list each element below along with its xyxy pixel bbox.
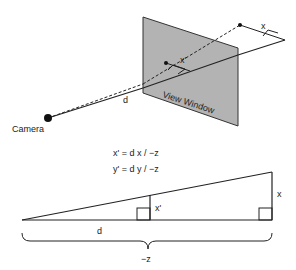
camera-dot — [44, 114, 52, 122]
xprime-label-bottom: x' — [155, 203, 162, 213]
far-point-dot — [238, 23, 242, 27]
equation-x: x' = d x / −z — [113, 148, 159, 158]
hypotenuse — [22, 172, 272, 220]
projected-point-dot — [164, 61, 168, 65]
z-brace — [22, 233, 272, 249]
perspective-projection-diagram: x x' d Camera View Window x' = d x / −z … — [0, 0, 296, 270]
negz-label: −z — [141, 254, 151, 264]
camera-label: Camera — [12, 124, 44, 134]
right-angle-inner — [137, 208, 150, 220]
x-label-bottom: x — [277, 189, 282, 199]
camera-axis-front — [48, 88, 143, 118]
top-perspective-view: x x' d Camera View Window — [12, 17, 285, 134]
d-label-bottom: d — [97, 226, 102, 236]
x-label-top: x — [261, 21, 266, 31]
equation-y: y' = d y / −z — [113, 164, 159, 174]
xprime-label-top: x' — [180, 55, 187, 65]
d-label-top: d — [123, 95, 128, 105]
bottom-similar-triangles: x x' d −z — [22, 172, 282, 264]
camera-axis-beyond — [238, 40, 285, 55]
right-angle-outer — [259, 208, 272, 220]
